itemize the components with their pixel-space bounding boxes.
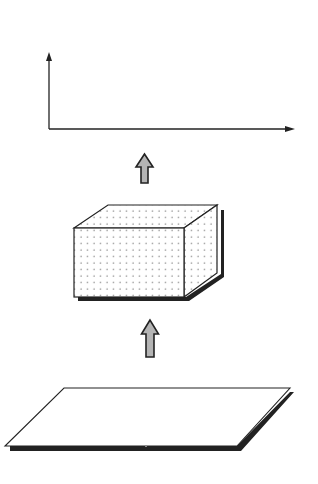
x-axis-arrowhead-icon (285, 126, 295, 132)
box-front-face (74, 228, 184, 297)
plane-marker (145, 445, 147, 447)
membership-functions-panel (46, 52, 295, 132)
up-arrow-icon (136, 154, 153, 183)
up-arrow-icon (142, 320, 159, 357)
data-space-plane (5, 388, 294, 451)
diagram-canvas (0, 0, 318, 484)
y-axis-arrowhead-icon (46, 52, 52, 61)
neural-clustering-box (74, 205, 224, 301)
